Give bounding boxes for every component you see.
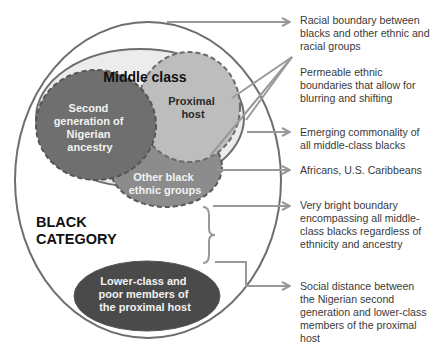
- annotation-racial-boundary: Racial boundary between blacks and other…: [300, 14, 430, 53]
- annotation-emerging-commonality: Emerging commonality of all middle-class…: [300, 126, 430, 152]
- lower-class-label: Lower-class and poor members of the prox…: [99, 275, 192, 313]
- annotation-social-distance: Social distance between the Nigerian sec…: [300, 280, 430, 345]
- other-black-label: Other black ethnic groups: [129, 171, 202, 196]
- middle-class-label: Middle class: [103, 69, 186, 85]
- annotation-permeable-boundaries: Permeable ethnic boundaries that allow f…: [300, 66, 430, 105]
- annotation-africans-caribbeans: Africans, U.S. Caribbeans: [300, 164, 430, 177]
- annotation-bright-boundary: Very bright boundary encompassing all mi…: [300, 199, 430, 251]
